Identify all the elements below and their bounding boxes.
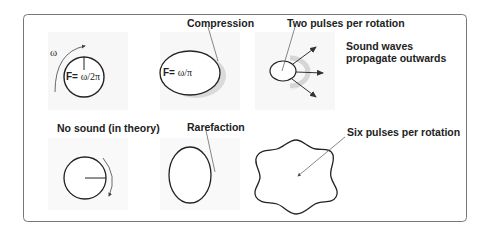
omega-label: ω — [50, 46, 57, 58]
diagram-svg — [0, 0, 492, 236]
compression-label: Compression — [187, 17, 254, 29]
two-pulses-label: Two pulses per rotation — [287, 17, 405, 29]
formula-prefix: F= — [163, 67, 175, 78]
formula-value: ω/2π — [81, 71, 100, 82]
six-pulses-label: Six pulses per rotation — [347, 126, 460, 138]
sound-waves-label-line2: propagate outwards — [346, 52, 446, 64]
formula-prefix: F= — [66, 71, 78, 82]
no-sound-label: No sound (in theory) — [57, 122, 160, 134]
diagram-stage: ω F= ω/2π F= ω/π Compression Two pulses … — [0, 0, 492, 236]
sound-waves-label-line1: Sound waves — [346, 40, 413, 52]
formula-double-frequency: F= ω/π — [163, 67, 192, 79]
rarefaction-label: Rarefaction — [187, 121, 245, 133]
formula-value: ω/π — [178, 67, 192, 78]
formula-half-frequency: F= ω/2π — [66, 71, 100, 83]
